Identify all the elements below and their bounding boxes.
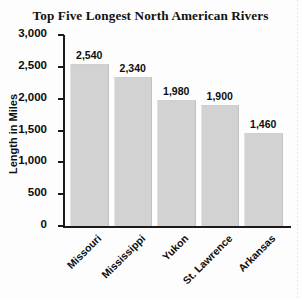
bar-value-label: 1,900 <box>193 90 248 102</box>
y-axis-tick-label: 500 <box>0 186 47 198</box>
y-axis-tick-label: 1,000 <box>0 154 47 166</box>
y-axis-tick-label: 2,000 <box>0 91 47 103</box>
y-axis-tick-label: 1,500 <box>0 123 47 135</box>
bar-value-label: 2,540 <box>62 49 117 61</box>
bar-value-label: 2,340 <box>106 62 161 74</box>
scan-edge-artifact <box>297 0 298 300</box>
plot-area: 05001,0001,5002,0002,5003,000 2,5402,340… <box>63 35 291 228</box>
y-axis-line <box>63 35 65 228</box>
bar <box>244 133 283 226</box>
bar-value-label: 1,460 <box>236 118 291 130</box>
bar <box>157 100 196 226</box>
bar <box>201 105 240 226</box>
chart-figure: Top Five Longest North American Rivers L… <box>0 0 301 300</box>
y-axis-tick <box>58 130 64 132</box>
x-axis-line <box>63 226 291 228</box>
y-axis-tick <box>58 98 64 100</box>
bar <box>114 77 153 226</box>
y-axis-tick <box>58 34 64 36</box>
y-axis-tick <box>58 161 64 163</box>
y-axis-tick-label: 3,000 <box>0 27 47 39</box>
y-axis-tick <box>58 225 64 227</box>
y-axis-tick-label: 2,500 <box>0 59 47 71</box>
y-axis-tick <box>58 193 64 195</box>
bar <box>70 64 109 226</box>
y-axis-tick-label: 0 <box>0 218 47 230</box>
chart-title: Top Five Longest North American Rivers <box>0 8 301 24</box>
y-axis-tick <box>58 66 64 68</box>
